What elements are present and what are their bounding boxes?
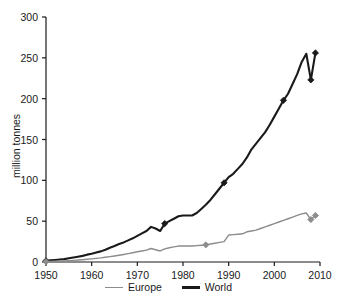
data-series-group [43, 50, 319, 265]
y-axis-label: million tonnes [10, 86, 22, 206]
data-point-marker-europe [203, 242, 209, 248]
x-tick-label: 2000 [263, 270, 286, 281]
x-tick-label: 1960 [80, 270, 103, 281]
data-point-marker-world [308, 77, 314, 83]
legend-label-europe: Europe [128, 281, 162, 293]
x-tick-label: 1980 [171, 270, 194, 281]
y-tick-label: 0 [0, 257, 38, 268]
plot-canvas [0, 0, 337, 303]
x-tick-label: 2010 [308, 270, 331, 281]
legend-item-world[interactable]: World [182, 281, 232, 293]
y-tick-label: 50 [0, 216, 38, 227]
legend-label-world: World [205, 281, 232, 293]
x-tick-label: 1950 [34, 270, 57, 281]
y-tick-label: 250 [0, 53, 38, 64]
axes [42, 17, 320, 266]
chart-figure: 050100150200250300 195019601970198019902… [0, 0, 337, 303]
data-point-marker-world [312, 50, 318, 56]
x-tick-label: 1990 [217, 270, 240, 281]
legend-line-europe-icon [105, 287, 123, 288]
legend-item-europe[interactable]: Europe [105, 281, 162, 293]
y-tick-label: 300 [0, 12, 38, 23]
x-tick-label: 1970 [126, 270, 149, 281]
series-line-world [46, 53, 315, 261]
legend-line-world-icon [182, 286, 200, 289]
chart-legend: Europe World [0, 281, 337, 293]
